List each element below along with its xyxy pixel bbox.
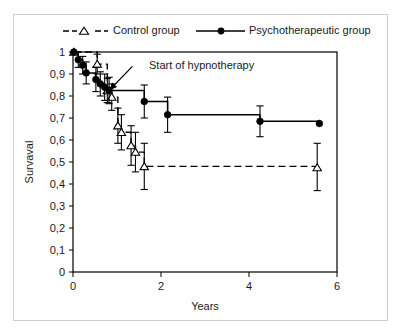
x-axis-title: Years xyxy=(191,300,219,312)
y-tick-label-0-5: 0,5 xyxy=(50,156,65,168)
data-point-filled-circle xyxy=(141,98,148,105)
y-tick-label-0-7: 0,7 xyxy=(50,112,65,124)
data-point-filled-circle xyxy=(75,56,82,63)
legend-entry-psychotherapeutic-group: Psychotherapeutic group xyxy=(196,24,371,36)
chart-legend: Control group Psychotherapeutic group xyxy=(63,24,371,36)
y-tick-label-0: 0 xyxy=(59,266,65,278)
y-tick-label-0-9: 0,9 xyxy=(50,68,65,80)
legend-label-control-group: Control group xyxy=(113,24,180,36)
y-tick-label-0-8: 0,8 xyxy=(50,90,65,102)
x-axis: 0 2 4 6 Years xyxy=(70,272,340,312)
data-point-open-triangle xyxy=(114,122,122,129)
y-axis: 1 0,9 0,8 0,7 0,6 0,5 0,4 0,3 0,2 0,1 0 … xyxy=(23,46,73,278)
annotation-label: Start of hypnotherapy xyxy=(149,59,255,71)
y-tick-label-0-2: 0,2 xyxy=(50,222,65,234)
figure-container: Control group Psychotherapeutic group xyxy=(0,0,402,336)
y-tick-label-0-1: 0,1 xyxy=(50,244,65,256)
y-tick-label-1: 1 xyxy=(59,46,65,58)
filled-circle-icon xyxy=(218,28,225,35)
legend-label-psychotherapeutic-group: Psychotherapeutic group xyxy=(249,24,371,36)
data-point-open-triangle xyxy=(313,164,321,171)
legend-entry-control-group: Control group xyxy=(63,24,180,36)
x-tick-label-6: 6 xyxy=(334,280,340,292)
data-point-filled-circle xyxy=(316,120,323,127)
x-tick-label-4: 4 xyxy=(246,280,252,292)
y-tick-label-0-3: 0,3 xyxy=(50,200,65,212)
y-tick-label-0-4: 0,4 xyxy=(50,178,65,190)
y-axis-title: Survaval xyxy=(23,141,35,184)
open-triangle-icon xyxy=(79,27,88,34)
data-point-filled-circle xyxy=(71,49,78,56)
data-point-open-triangle xyxy=(117,129,125,136)
y-tick-label-0-6: 0,6 xyxy=(50,134,65,146)
data-point-filled-circle xyxy=(257,118,264,125)
data-point-open-triangle xyxy=(131,148,139,155)
x-tick-label-0: 0 xyxy=(70,280,76,292)
annotation-start-of-hypnotherapy: Start of hypnotherapy xyxy=(109,59,255,91)
data-point-filled-circle xyxy=(83,70,90,77)
data-point-filled-circle xyxy=(79,62,86,69)
data-point-open-triangle xyxy=(127,142,135,149)
x-tick-label-2: 2 xyxy=(158,280,164,292)
survival-curve-chart: Control group Psychotherapeutic group xyxy=(0,0,402,336)
data-point-filled-circle xyxy=(164,111,171,118)
